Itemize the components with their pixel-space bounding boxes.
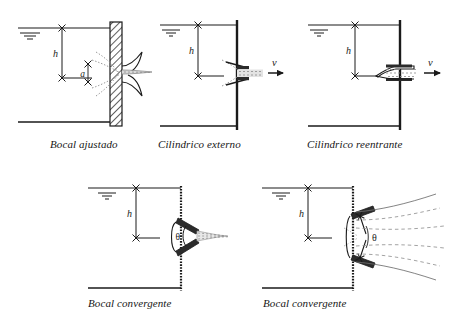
panel-cilindrico-reentrante: h v <box>308 20 440 130</box>
opening-dimension-a: a <box>80 64 88 82</box>
jet-streamlines-dashed <box>356 208 444 266</box>
jet-stream <box>122 70 152 74</box>
angle-label: θ <box>175 232 180 242</box>
velocity-arrow: v <box>424 57 440 73</box>
opening-label: a <box>80 69 85 79</box>
panel-bocal-ajustado: h a <box>18 22 152 126</box>
caption-cilindrico-reentrante: Cilindrico reentrante <box>307 138 403 150</box>
angle-label: θ <box>372 232 377 243</box>
hydraulics-nozzle-figure: h a <box>0 0 451 320</box>
velocity-label: v <box>428 57 433 68</box>
panel-cilindrico-externo: h v <box>160 20 283 130</box>
head-label: h <box>127 208 132 219</box>
figure-root: h a <box>0 0 451 320</box>
panel-bocal-convergente-1: h θ <box>88 186 230 291</box>
free-surface-triangle-icon <box>310 30 328 36</box>
velocity-arrow: v <box>268 57 283 73</box>
head-label: h <box>189 45 194 56</box>
free-surface-triangle-icon <box>20 33 40 39</box>
caption-bocal-convergente-1: Bocal convergente <box>88 297 171 309</box>
panel-bocal-convergente-2: h θ <box>262 186 444 291</box>
head-dimension-h: h <box>53 28 92 78</box>
free-surface-triangle-icon <box>162 30 180 36</box>
nozzle-convergent <box>346 206 375 268</box>
caption-cilindrico-externo: Cilindrico externo <box>158 138 241 150</box>
jet-stream <box>197 231 230 241</box>
head-label: h <box>299 208 304 219</box>
velocity-label: v <box>272 57 277 68</box>
free-surface-triangle-icon <box>98 193 116 199</box>
head-label: h <box>346 45 351 56</box>
caption-bocal-convergente-2: Bocal convergente <box>263 297 346 309</box>
head-dimension-h: h <box>127 188 160 238</box>
head-dimension-h: h <box>189 25 224 76</box>
caption-bocal-ajustado: Bocal ajustado <box>50 138 118 150</box>
tank-wall-hatched <box>110 22 122 126</box>
angle-theta: θ <box>360 216 377 258</box>
head-dimension-h: h <box>299 188 332 238</box>
jet-stream <box>237 70 263 78</box>
head-label: h <box>53 48 58 59</box>
free-surface-triangle-icon <box>272 193 290 199</box>
head-dimension-h: h <box>346 25 378 76</box>
